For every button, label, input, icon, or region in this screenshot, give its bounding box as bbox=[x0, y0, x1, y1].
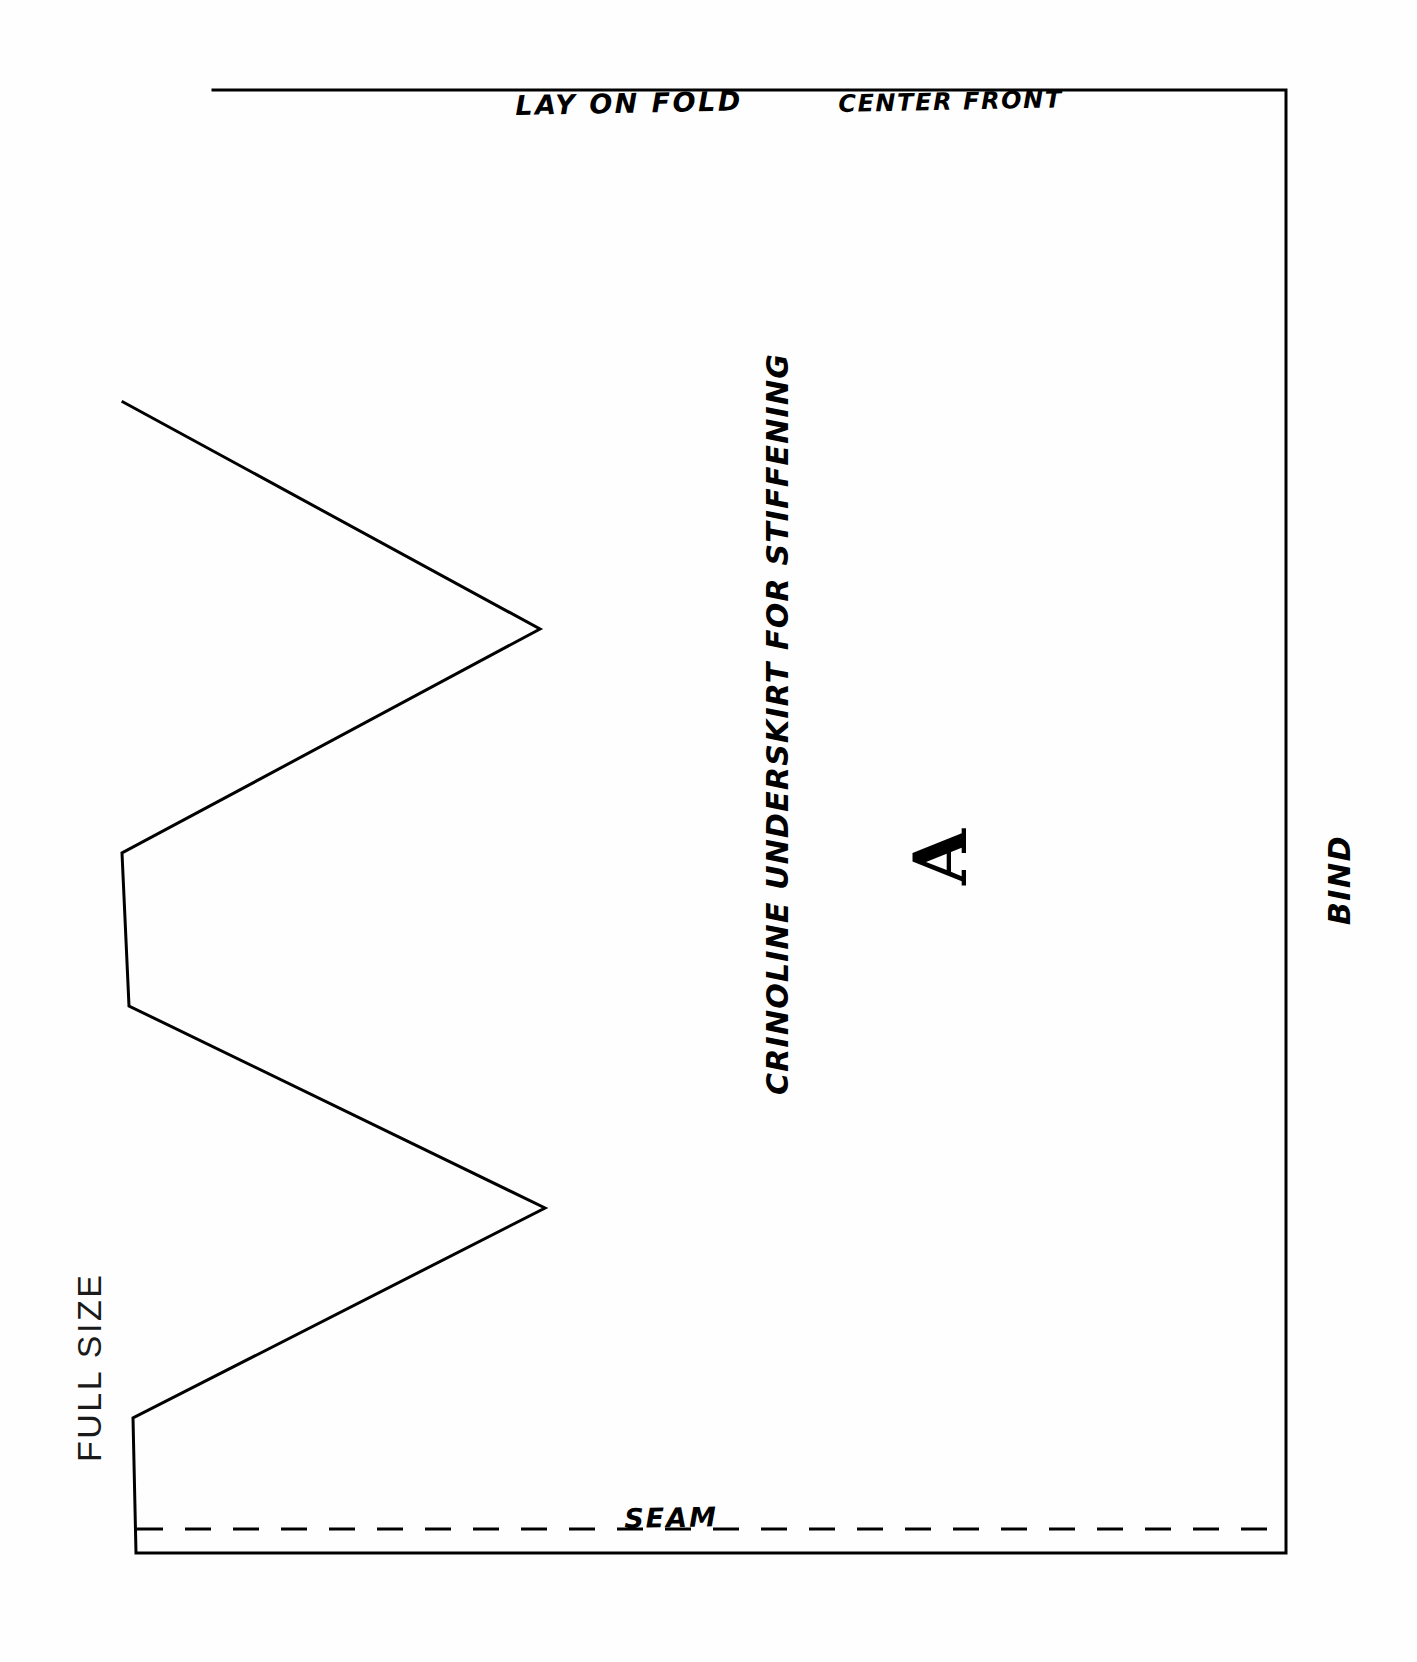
pattern-outline-path bbox=[122, 90, 1286, 1553]
label-crinoline-underskirt: CRINOLINE UNDERSKIRT FOR STIFFENING bbox=[763, 353, 793, 1095]
label-piece-letter-a: A bbox=[905, 829, 977, 885]
label-lay-on-fold: LAY ON FOLD bbox=[515, 87, 743, 119]
label-center-front: CENTER FRONT bbox=[838, 87, 1063, 116]
label-bind: BIND bbox=[1325, 835, 1355, 925]
label-seam: SEAM bbox=[624, 1503, 718, 1532]
pattern-drawing bbox=[0, 0, 1417, 1662]
label-full-size: FULL SIZE bbox=[72, 1273, 106, 1462]
pattern-sheet: LAY ON FOLD CENTER FRONT CRINOLINE UNDER… bbox=[0, 0, 1417, 1662]
